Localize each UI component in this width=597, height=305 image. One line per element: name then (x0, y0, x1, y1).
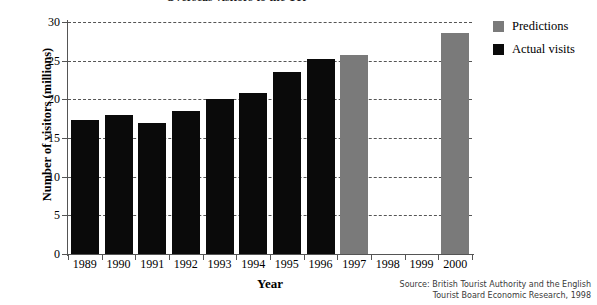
y-tick-label: 15 (34, 132, 60, 144)
source-note-line-1: Source: British Tourist Authority and th… (361, 279, 591, 290)
y-tick-mark (62, 22, 68, 23)
bar-1997 (340, 55, 368, 254)
legend-item-predictions: Predictions (493, 20, 575, 33)
y-axis-title: Number of visitors (millions) (41, 10, 54, 240)
legend-label-actual-visits: Actual visits (512, 43, 575, 56)
bar-2000 (441, 33, 469, 254)
source-note-line-2: Tourist Board Economic Research, 1998 (361, 290, 591, 301)
gridline (68, 99, 472, 100)
bar-1989 (71, 120, 99, 254)
legend-swatch-predictions (493, 21, 504, 32)
y-tick-label: 30 (34, 16, 60, 28)
y-tick-mark (62, 177, 68, 178)
gridline (68, 22, 472, 23)
bar-1992 (172, 111, 200, 254)
bar-1996 (307, 59, 335, 254)
bar-1991 (138, 123, 166, 254)
bar-1990 (105, 115, 133, 254)
bar-1995 (273, 72, 301, 254)
y-tick-label: 25 (34, 55, 60, 67)
y-tick-label: 5 (34, 209, 60, 221)
y-tick-label: 20 (34, 93, 60, 105)
y-tick-mark (62, 138, 68, 139)
y-tick-mark (62, 61, 68, 62)
x-tick-label-2000: 2000 (435, 258, 475, 271)
legend-item-actual-visits: Actual visits (493, 43, 575, 56)
y-tick-label: 0 (34, 248, 60, 260)
x-tick-mark (68, 254, 69, 260)
chart-figure: Overseas visitors to the UK Number of vi… (0, 0, 597, 305)
bar-1994 (239, 93, 267, 254)
legend-label-predictions: Predictions (512, 20, 568, 33)
y-tick-label: 10 (34, 171, 60, 183)
source-note: Source: British Tourist Authority and th… (361, 279, 591, 301)
legend-swatch-actual-visits (493, 44, 504, 55)
gridline (68, 61, 472, 62)
chart-legend: Predictions Actual visits (493, 20, 575, 66)
y-tick-mark (62, 215, 68, 216)
y-tick-mark (62, 99, 68, 100)
plot-area (68, 22, 472, 254)
chart-title: Overseas visitors to the UK (0, 0, 472, 3)
bar-1993 (206, 99, 234, 254)
